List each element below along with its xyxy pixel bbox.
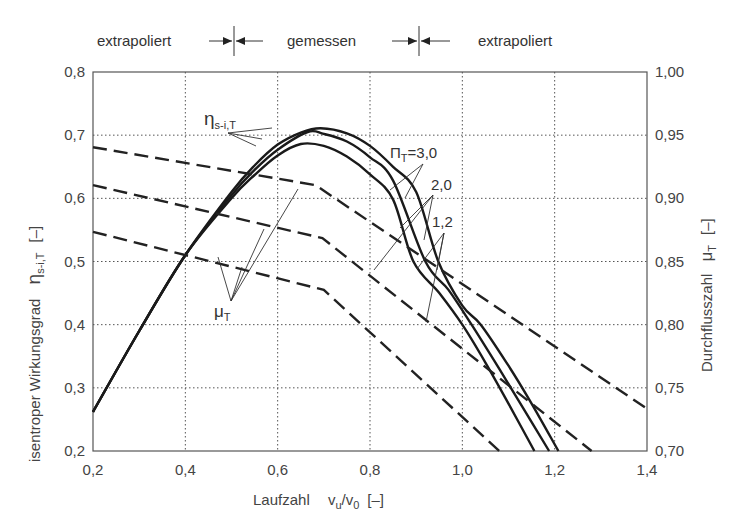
y-axis-label: isentroper Wirkungsgrad ηs-i,T[–]	[23, 226, 46, 462]
pi-symbol: Π	[390, 144, 401, 161]
x-axis-label: Laufzahl vu/v0[–]	[253, 491, 384, 511]
mu-annotation-sub: T	[224, 311, 231, 323]
mu-leader-line	[218, 257, 231, 301]
x-tick-label: 1,2	[544, 461, 565, 478]
y-axis-subscript: s-i,T	[34, 252, 46, 274]
mu-annotation: μT	[214, 189, 298, 323]
arrow-right-icon	[223, 37, 232, 45]
y2-tick-label: 0,90	[655, 189, 684, 206]
y-tick-label: 0,8	[64, 63, 85, 80]
grid	[93, 72, 647, 451]
y-axis-label-text: isentroper Wirkungsgrad	[26, 299, 43, 462]
mu-leader-line	[231, 189, 298, 301]
x-tick-label: 1,4	[637, 461, 658, 478]
pi-leader-line	[426, 233, 444, 322]
y2-axis-subscript: T	[706, 245, 718, 252]
x-tick-label: 1,0	[452, 461, 473, 478]
y2-axis-label-text: Durchflusszahl	[698, 274, 715, 372]
y2-tick-label: 0,75	[655, 379, 684, 396]
x-axis-label-text: Laufzahl	[253, 491, 310, 508]
ticks: 0,20,40,60,81,01,21,40,20,30,40,50,60,70…	[64, 63, 684, 478]
y2-tick-label: 0,80	[655, 316, 684, 333]
y-tick-label: 0,5	[64, 253, 85, 270]
y-tick-label: 0,3	[64, 379, 85, 396]
x-tick-label: 0,4	[175, 461, 196, 478]
svg-text:Durchflusszahl μT[–]: Durchflusszahl μT[–]	[697, 218, 718, 372]
boundary-marker-right	[392, 26, 450, 56]
eta-annotation-sub: s-i,T	[215, 119, 237, 131]
header-measured: gemessen	[287, 32, 356, 49]
x-tick-label: 0,6	[267, 461, 288, 478]
arrow-right-icon	[408, 37, 417, 45]
chart: 0,20,40,60,81,01,21,40,20,30,40,50,60,70…	[0, 0, 745, 530]
y2-tick-label: 0,85	[655, 253, 684, 270]
svg-text:isentroper Wirkungsgrad: isentroper Wirkungsgrad ηs-i,T[–]	[23, 226, 46, 462]
y-axis-unit: [–]	[26, 226, 43, 243]
arrow-left-icon	[236, 37, 245, 45]
y2-tick-label: 0,95	[655, 126, 684, 143]
y-tick-label: 0,2	[64, 442, 85, 459]
y-axis-symbol: η	[23, 274, 44, 285]
y2-axis-unit: [–]	[698, 218, 715, 235]
mu-leader-line	[231, 229, 264, 301]
header-extrapolated-left: extrapoliert	[97, 32, 172, 49]
x-axis-unit: [–]	[367, 491, 384, 508]
y2-tick-label: 1,00	[655, 63, 684, 80]
pi-value-1-2: 1,2	[432, 213, 453, 230]
svg-text:ηs-i,T: ηs-i,T	[204, 108, 236, 131]
x-tick-label: 0,8	[360, 461, 381, 478]
svg-text:ΠT=3,0: ΠT=3,0	[390, 144, 437, 164]
pi-value-2: 2,0	[431, 176, 452, 193]
measurement-range-header: extrapoliert gemessen extrapoliert	[97, 26, 553, 56]
y2-axis-symbol: μ	[697, 252, 716, 262]
header-extrapolated-right: extrapoliert	[478, 32, 553, 49]
eta-leader-line	[228, 133, 262, 139]
mu-curve-4	[93, 185, 592, 451]
eta-curve-2	[93, 143, 534, 451]
x-axis-sub-den: 0	[353, 499, 359, 511]
y-tick-label: 0,4	[64, 316, 85, 333]
eta-annotation: ηs-i,T	[204, 108, 272, 146]
arrow-left-icon	[421, 37, 430, 45]
mu-annotation-symbol: μ	[214, 302, 224, 321]
boundary-marker-left	[209, 26, 263, 56]
mu-leader-line	[231, 267, 242, 301]
x-tick-label: 0,2	[83, 461, 104, 478]
y2-tick-label: 0,70	[655, 442, 684, 459]
eta-annotation-symbol: η	[204, 108, 215, 129]
svg-text:μT: μT	[214, 302, 231, 323]
pi-leader-line	[405, 164, 423, 198]
y2-axis-label: Durchflusszahl μT[–]	[697, 218, 718, 372]
y-tick-label: 0,6	[64, 189, 85, 206]
pi-value-3: =3,0	[408, 144, 438, 161]
y-tick-label: 0,7	[64, 126, 85, 143]
